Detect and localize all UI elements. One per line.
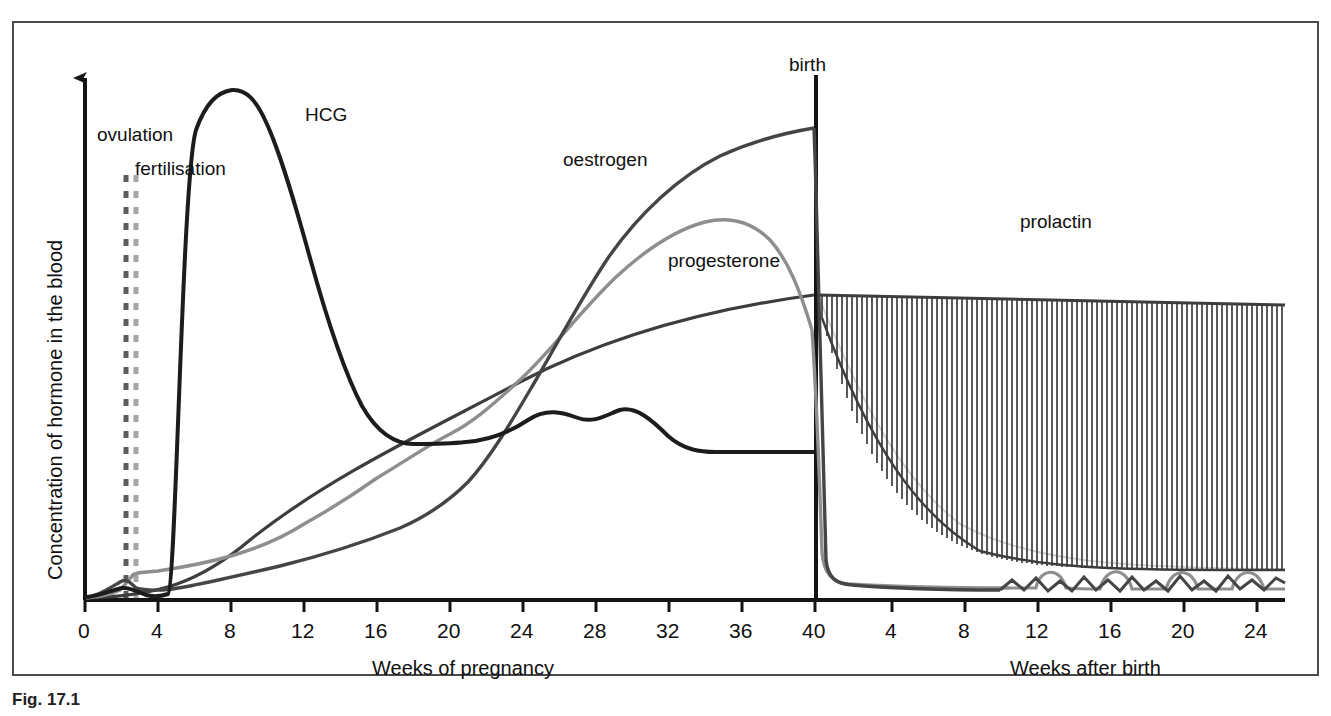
- birth-label: birth: [789, 55, 826, 74]
- x-axis-title-pregnancy: Weeks of pregnancy: [372, 658, 554, 678]
- x-tick-36: 36: [729, 620, 752, 641]
- x-tick-32: 32: [656, 620, 679, 641]
- x-tick-24: 24: [510, 620, 533, 641]
- x-tick-12: 12: [291, 620, 314, 641]
- x-tick-4: 4: [151, 620, 163, 641]
- x-axis-title-postnatal: Weeks after birth: [1010, 658, 1161, 678]
- oestrogen-label: oestrogen: [563, 150, 648, 169]
- hcg-label: HCG: [305, 105, 347, 124]
- figure-root: Concentration of hormone in the blood ov…: [0, 0, 1331, 716]
- figure-caption-number: Fig. 17.1: [12, 690, 80, 709]
- x-tick-post-8: 8: [958, 620, 970, 641]
- figure-frame: [12, 21, 1319, 676]
- x-tick-0: 0: [78, 620, 90, 641]
- fertilisation-label: fertilisation: [135, 159, 226, 178]
- x-tick-28: 28: [583, 620, 606, 641]
- x-tick-8: 8: [224, 620, 236, 641]
- x-tick-40: 40: [802, 620, 825, 641]
- figure-caption: Fig. 17.1: [12, 690, 80, 710]
- x-tick-20: 20: [437, 620, 460, 641]
- x-tick-post-12: 12: [1025, 620, 1048, 641]
- x-tick-post-4: 4: [885, 620, 897, 641]
- ovulation-label: ovulation: [97, 125, 173, 144]
- progesterone-label: progesterone: [668, 251, 780, 270]
- x-tick-16: 16: [364, 620, 387, 641]
- x-tick-post-20: 20: [1171, 620, 1194, 641]
- y-axis-label: Concentration of hormone in the blood: [45, 240, 65, 580]
- x-tick-post-16: 16: [1098, 620, 1121, 641]
- x-tick-post-24: 24: [1244, 620, 1267, 641]
- prolactin-label: prolactin: [1020, 212, 1092, 231]
